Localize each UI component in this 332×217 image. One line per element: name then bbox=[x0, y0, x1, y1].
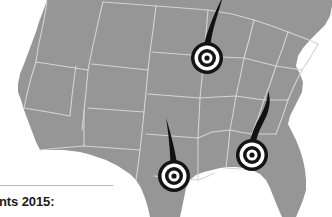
state-border-line bbox=[302, 44, 318, 70]
caption-block: nts 2015: bbox=[0, 180, 332, 217]
state-border-line bbox=[198, 173, 214, 180]
screenshot-canvas: nts 2015: bbox=[0, 0, 332, 217]
caption-divider bbox=[0, 185, 113, 186]
bullseye-center bbox=[204, 55, 209, 60]
bullseye-center bbox=[171, 173, 176, 178]
bullseye-center bbox=[249, 152, 254, 157]
bullseye-icon bbox=[174, 176, 175, 177]
bullseye-icon bbox=[207, 58, 208, 59]
bullseye-icon bbox=[252, 155, 253, 156]
caption-title: nts 2015: bbox=[0, 194, 54, 210]
